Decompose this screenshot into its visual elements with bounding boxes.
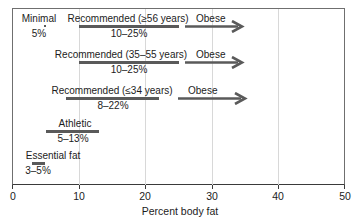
tick-label-40: 40 bbox=[263, 190, 293, 202]
band-value-recommended-35-55: 10–25% bbox=[104, 64, 154, 75]
tick-label-30: 30 bbox=[197, 190, 227, 202]
tick-mark-40 bbox=[278, 185, 279, 189]
tick-label-20: 20 bbox=[130, 190, 160, 202]
band-value-recommended-56plus: 10–25% bbox=[104, 28, 154, 39]
band-label-recommended-34minus: Recommended (≤34 years) bbox=[42, 85, 182, 96]
band-label-recommended-35-55: Recommended (35–55 years) bbox=[49, 49, 193, 60]
tick-label-50: 50 bbox=[330, 190, 360, 202]
obese-arrow-row1 bbox=[185, 56, 247, 69]
minimal-label: Minimal bbox=[11, 13, 67, 24]
x-axis-title: Percent body fat bbox=[0, 205, 360, 217]
minimal-marker bbox=[44, 25, 46, 27]
tick-mark-10 bbox=[79, 185, 80, 189]
tick-mark-20 bbox=[145, 185, 146, 189]
tick-label-0: 0 bbox=[0, 190, 28, 202]
body-fat-chart: Minimal 5% Recommended (≥56 years) 10–25… bbox=[0, 0, 360, 223]
tick-mark-0 bbox=[12, 185, 13, 189]
gridline-40 bbox=[278, 9, 279, 185]
obese-arrow-row0 bbox=[185, 20, 247, 33]
tick-mark-50 bbox=[344, 185, 345, 189]
band-value-recommended-34minus: 8–22% bbox=[88, 100, 138, 111]
band-label-essential-fat: Essential fat bbox=[15, 150, 91, 161]
tick-mark-30 bbox=[212, 185, 213, 189]
band-value-essential-fat: 3–5% bbox=[13, 165, 63, 176]
tick-label-10: 10 bbox=[64, 190, 94, 202]
obese-arrow-row2 bbox=[178, 92, 250, 105]
band-value-athletic: 5–13% bbox=[48, 133, 98, 144]
minimal-value: 5% bbox=[22, 28, 56, 39]
band-label-athletic: Athletic bbox=[46, 118, 104, 129]
band-label-recommended-56plus: Recommended (≥56 years) bbox=[62, 13, 194, 24]
